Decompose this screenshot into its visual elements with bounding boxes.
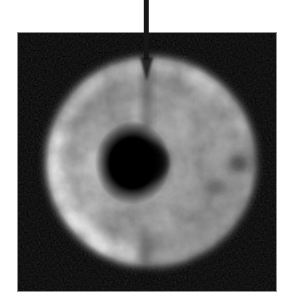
ring-hole (95, 121, 171, 205)
image-frame (17, 32, 277, 292)
bottom-dark-streak (141, 225, 150, 277)
figure-canvas (0, 0, 290, 304)
dark-patch-right-lower (205, 179, 227, 195)
ring-image (18, 33, 276, 291)
top-dark-streak (144, 50, 151, 130)
dark-patch-right-upper (229, 156, 247, 170)
